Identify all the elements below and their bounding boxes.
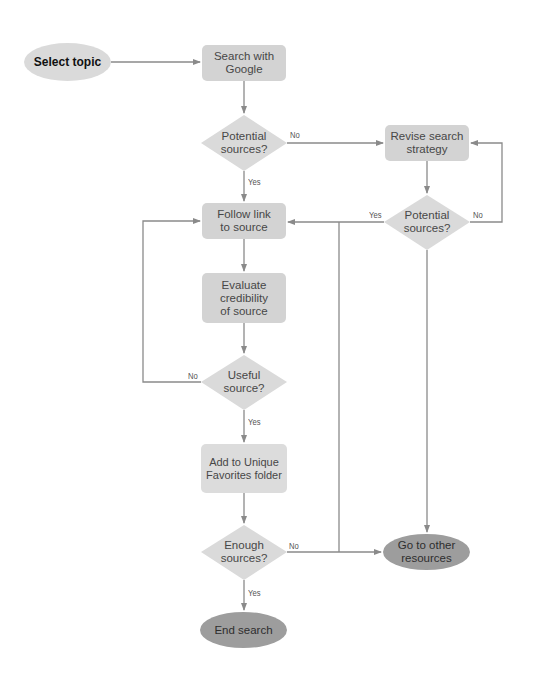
node-label: Potential sources? <box>211 130 277 156</box>
node-label: Add to Unique Favorites folder <box>203 456 285 482</box>
node-label: Search with Google <box>208 50 280 76</box>
node-label: Useful source? <box>218 369 270 395</box>
edge-useful-no <box>143 221 201 382</box>
node-label: Evaluate credibility of source <box>218 279 270 318</box>
node-add-favorites: Add to Unique Favorites folder <box>201 444 287 493</box>
node-select-topic: Select topic <box>24 43 111 81</box>
node-enough-sources: Enough sources? <box>214 537 274 567</box>
connectors-layer <box>0 0 538 690</box>
edge-label-useful-yes: Yes <box>248 417 260 427</box>
node-potential-sources-2: Potential sources? <box>394 207 460 237</box>
flowchart-canvas: Select topic Search with Google Potentia… <box>0 0 538 690</box>
node-label: Enough sources? <box>214 539 274 565</box>
edge-label-enough-yes: Yes <box>248 588 260 598</box>
node-other-resources: Go to other resources <box>383 534 470 570</box>
node-label: Select topic <box>34 56 101 69</box>
node-end-search: End search <box>200 612 287 648</box>
node-evaluate-credibility: Evaluate credibility of source <box>202 273 286 323</box>
node-follow-link: Follow link to source <box>202 203 286 239</box>
edge-label-ps1-no: No <box>290 130 300 140</box>
edge-label-ps2-yes: Yes <box>369 210 381 220</box>
edge-label-enough-no: No <box>289 541 299 551</box>
node-label: Potential sources? <box>394 209 460 235</box>
node-label: End search <box>214 624 272 637</box>
node-revise-strategy: Revise search strategy <box>385 125 469 161</box>
edge-label-ps2-no: No <box>473 210 483 220</box>
edge-label-useful-no: No <box>188 371 198 381</box>
edge-label-ps1-yes: Yes <box>248 177 260 187</box>
node-label: Go to other resources <box>393 539 460 565</box>
node-search-google: Search with Google <box>202 45 286 81</box>
node-useful-source: Useful source? <box>214 367 274 397</box>
node-potential-sources-1: Potential sources? <box>211 128 277 158</box>
node-label: Follow link to source <box>216 208 272 234</box>
node-label: Revise search strategy <box>389 130 465 156</box>
